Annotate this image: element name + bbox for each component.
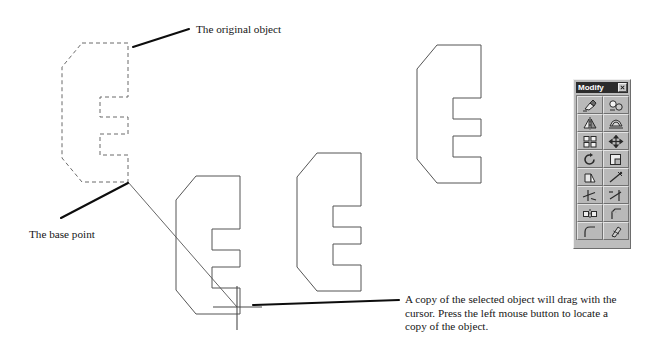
crosshair-cursor xyxy=(213,286,262,330)
annotation-copy-hint: A copy of the selected object will drag … xyxy=(405,293,637,334)
modify-toolbar-titlebar[interactable]: Modify xyxy=(576,82,628,93)
tool-button-copy[interactable] xyxy=(603,96,629,114)
drawing-canvas[interactable]: The original object The base point A cop… xyxy=(0,0,657,361)
tool-button-lengthen[interactable] xyxy=(603,168,629,186)
copy-object-icon xyxy=(608,99,624,112)
extend-icon xyxy=(608,189,624,202)
dragging-copy-outline[interactable] xyxy=(176,176,240,314)
placed-copy-middle[interactable] xyxy=(297,153,361,291)
tool-button-rotate[interactable] xyxy=(577,150,603,168)
scale-icon xyxy=(608,153,624,166)
annotation-base-point: The base point xyxy=(29,228,95,242)
annotation-copy-hint-line3: copy of the object. xyxy=(405,320,637,334)
trim-icon xyxy=(582,189,598,202)
tool-button-scale[interactable] xyxy=(603,150,629,168)
tool-button-mirror[interactable] xyxy=(577,114,603,132)
mirror-icon xyxy=(582,117,598,130)
lengthen-icon xyxy=(608,171,624,184)
tool-button-stretch[interactable] xyxy=(577,168,603,186)
annotation-copy-hint-line2: cursor. Press the left mouse button to l… xyxy=(405,307,637,321)
chamfer-icon xyxy=(608,207,624,220)
erase-icon xyxy=(582,99,598,112)
leader-copy-hint xyxy=(253,300,399,305)
tool-button-extend[interactable] xyxy=(603,186,629,204)
annotation-original-object: The original object xyxy=(196,23,281,37)
break-icon xyxy=(582,207,598,220)
tool-button-erase[interactable] xyxy=(577,96,603,114)
tool-button-offset[interactable] xyxy=(603,114,629,132)
modify-toolbar-title: Modify xyxy=(578,82,604,93)
array-icon xyxy=(582,135,598,148)
tool-button-explode[interactable] xyxy=(603,222,629,240)
tool-button-array[interactable] xyxy=(577,132,603,150)
tool-button-trim[interactable] xyxy=(577,186,603,204)
placed-copy-right[interactable] xyxy=(417,45,481,183)
tool-button-chamfer[interactable] xyxy=(603,204,629,222)
tool-button-fillet[interactable] xyxy=(577,222,603,240)
close-icon[interactable] xyxy=(618,83,627,92)
tool-button-break[interactable] xyxy=(577,204,603,222)
offset-icon xyxy=(608,117,624,130)
annotation-copy-hint-line1: A copy of the selected object will drag … xyxy=(405,293,637,307)
stretch-icon xyxy=(582,171,598,184)
modify-toolbar-palette[interactable]: Modify xyxy=(573,79,631,249)
rotate-icon xyxy=(582,153,598,166)
explode-icon xyxy=(608,225,624,238)
rubber-band-line xyxy=(128,182,237,307)
fillet-icon xyxy=(582,225,598,238)
leader-base-point xyxy=(61,183,128,218)
tool-button-move[interactable] xyxy=(603,132,629,150)
original-object-dashed[interactable] xyxy=(62,43,128,182)
move-icon xyxy=(608,135,624,148)
leader-original-object xyxy=(133,29,189,47)
modify-toolbar-buttons[interactable] xyxy=(576,95,629,240)
